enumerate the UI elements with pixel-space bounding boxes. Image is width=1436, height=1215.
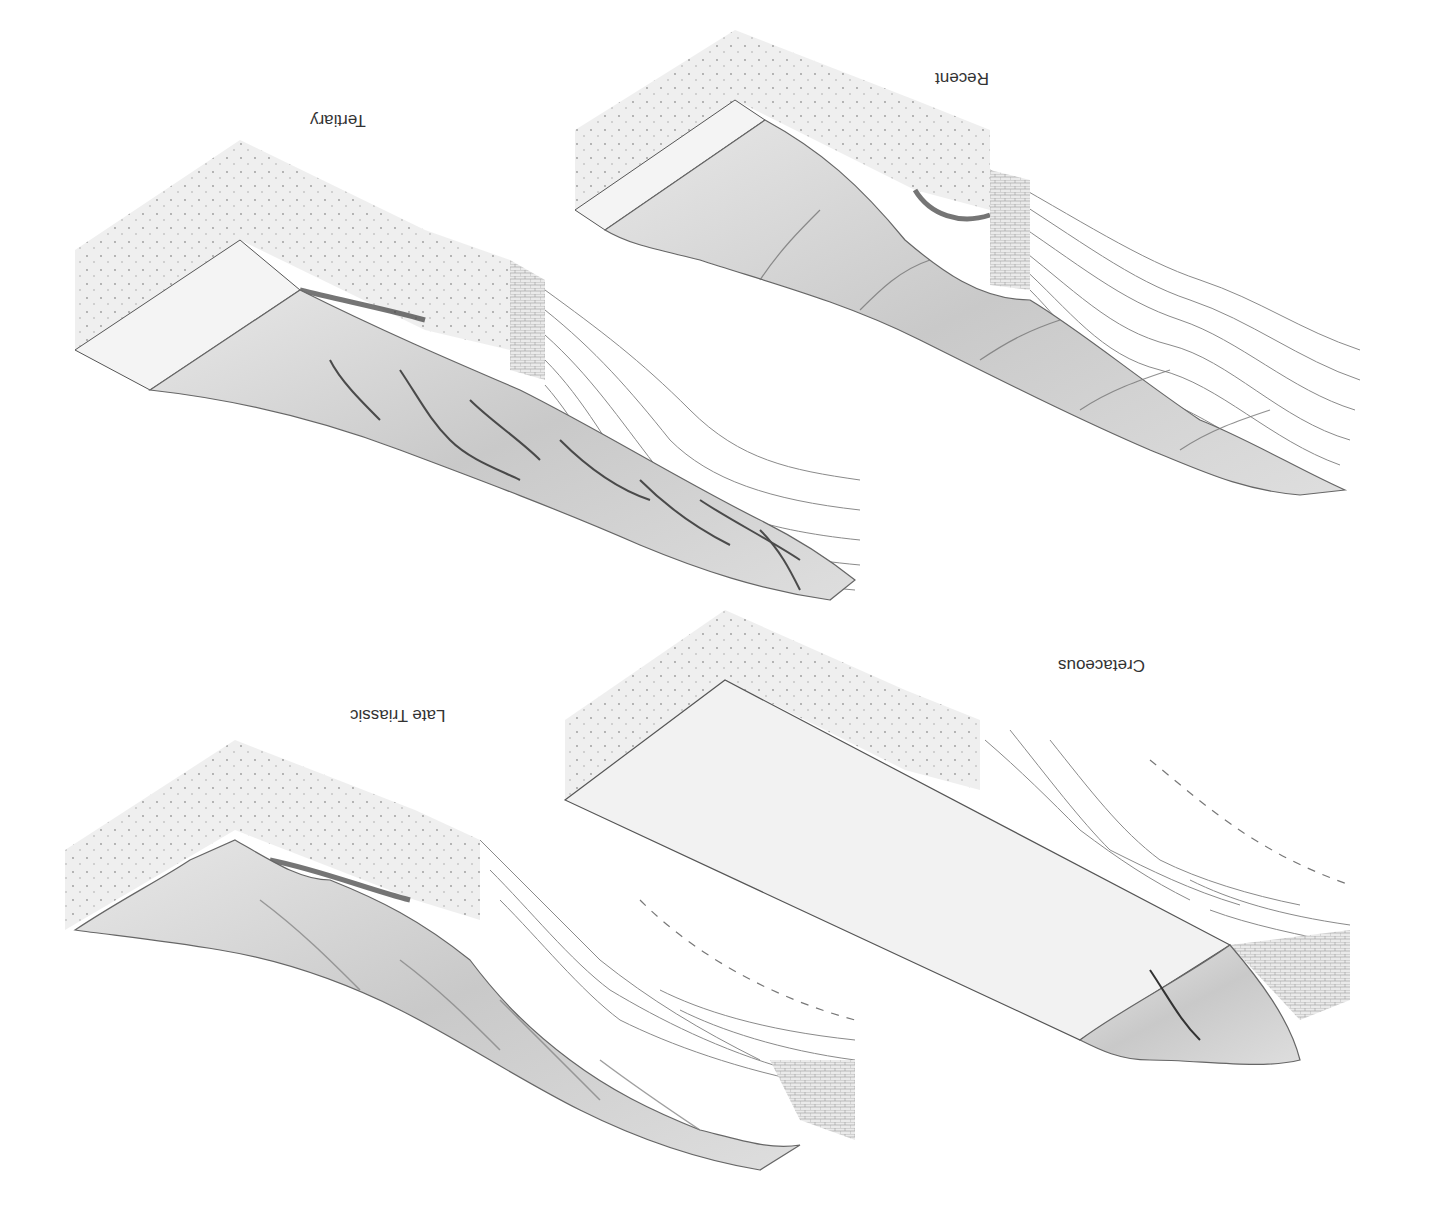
panel-recent-block: [575, 30, 1360, 495]
geologic-block-diagram-figure: Recent Tertiary Cretaceous Late Triassic: [0, 0, 1436, 1215]
panel-label-cretaceous: Cretaceous: [1058, 655, 1145, 675]
panel-cretaceous-block: [565, 610, 1350, 1064]
panel-label-tertiary: Tertiary: [310, 110, 366, 130]
panel-label-late-triassic: Late Triassic: [350, 705, 445, 725]
panel-label-recent: Recent: [935, 68, 989, 88]
block-diagrams-illustration: [0, 0, 1436, 1215]
